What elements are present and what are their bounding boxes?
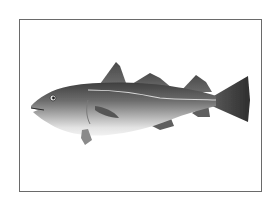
pupil (52, 97, 55, 100)
tail-fin (212, 76, 250, 122)
fish-body (31, 83, 216, 136)
cod-fish-image (0, 0, 275, 206)
first-dorsal-fin (100, 62, 126, 84)
